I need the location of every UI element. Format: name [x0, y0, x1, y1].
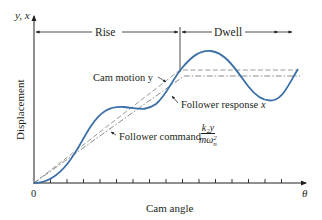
x-axis-ticks: [51, 179, 282, 183]
x-axis-label: Cam angle: [146, 202, 193, 214]
cam-motion-curve: [34, 70, 298, 183]
fraction-denominator: mω2n: [199, 134, 217, 147]
fraction-numerator: k₂y: [201, 122, 215, 134]
follower-response-leader: [172, 96, 178, 103]
y-axis-symbol: y, x: [15, 9, 30, 21]
rise-label: Rise: [95, 26, 115, 38]
follower-command-label: Follower command: [119, 131, 201, 143]
follower-command-leader: [111, 132, 116, 135]
follower-response-label: Follower response x: [181, 99, 266, 111]
follower-response-text: Follower response: [181, 99, 258, 110]
cam-motion-leader: [158, 77, 166, 82]
follower-response-symbol: x: [261, 99, 266, 110]
dwell-label: Dwell: [214, 26, 242, 38]
origin-label: 0: [31, 188, 36, 200]
y-axis-label: Displacement: [14, 80, 26, 140]
cam-motion-label: Cam motion y: [93, 72, 153, 84]
follower-command-fraction: k₂y mω2n: [199, 122, 217, 147]
follower-response-curve: [34, 51, 298, 183]
displacement-diagram: [0, 0, 322, 220]
x-axis-symbol: θ: [302, 187, 307, 199]
